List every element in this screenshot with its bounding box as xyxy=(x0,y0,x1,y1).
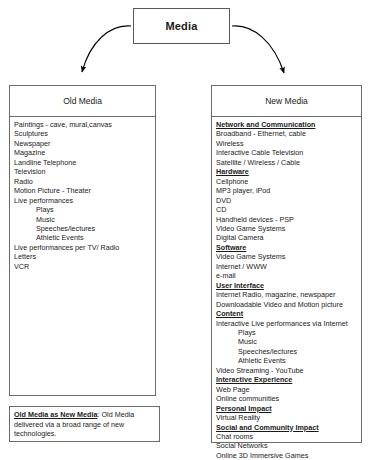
list-item: Handheld devices - PSP xyxy=(216,215,361,224)
list-item: Magazine xyxy=(14,148,155,157)
note-old-media-as-new-media: Old Media as New Media: Old Media delive… xyxy=(9,406,160,442)
diagram-canvas: Media Old Media Paintings - cave, mural,… xyxy=(0,0,373,460)
list-item: Landline Telephone xyxy=(14,158,155,167)
node-new-media[interactable]: New Media Network and CommunicationBroad… xyxy=(211,85,362,443)
list-item: Online 3D Immersive Games xyxy=(216,451,361,460)
list-item: Downloadable Video and Motion picture xyxy=(216,300,361,309)
list-item: Music xyxy=(216,337,361,346)
list-category: Hardware xyxy=(216,167,361,176)
new-media-header: New Media xyxy=(212,86,361,117)
note-label: Old Media as New Media xyxy=(14,410,97,419)
list-category: User Interface xyxy=(216,281,361,290)
list-item: Plays xyxy=(14,205,155,214)
list-item: Video Game Systems xyxy=(216,224,361,233)
list-item: Web Page xyxy=(216,385,361,394)
list-item: Letters xyxy=(14,252,155,261)
list-item: Video Game Systems xyxy=(216,252,361,261)
old-media-header: Old Media xyxy=(10,86,155,117)
arrow-to-new-media-path xyxy=(232,26,284,73)
list-item: Virtual Reality xyxy=(216,413,361,422)
list-item: CD xyxy=(216,205,361,214)
list-item: Internet / WWW xyxy=(216,262,361,271)
list-item: Paintings - cave, mural,canvas xyxy=(14,120,155,129)
list-category: Software xyxy=(216,243,361,252)
arrow-to-old-media-path xyxy=(82,26,131,72)
list-item: Satellite / Wireless / Cable xyxy=(216,158,361,167)
list-item: Video Streaming - YouTube xyxy=(216,366,361,375)
list-category: Social and Community Impact xyxy=(216,423,361,432)
list-item: Radio xyxy=(14,177,155,186)
list-category: Interactive Experience xyxy=(216,375,361,384)
list-item: Sculptures xyxy=(14,129,155,138)
list-item: VCR xyxy=(14,262,155,271)
list-item: Athletic Events xyxy=(216,356,361,365)
list-item: DVD xyxy=(216,196,361,205)
list-category: Network and Communication xyxy=(216,120,361,129)
list-item: Plays xyxy=(216,328,361,337)
list-item: Wireless xyxy=(216,139,361,148)
new-media-header-label: New Media xyxy=(265,96,308,106)
list-item: Digital Camera xyxy=(216,233,361,242)
list-item: Speeches/lectures xyxy=(14,224,155,233)
list-item: Interactive Cable Television xyxy=(216,148,361,157)
list-item: Internet Radio, magazine, newspaper xyxy=(216,290,361,299)
root-node-media[interactable]: Media xyxy=(133,8,230,44)
list-item: Athletic Events xyxy=(14,233,155,242)
list-item: Television xyxy=(14,167,155,176)
list-item: Interactive Live performances via Intern… xyxy=(216,319,361,328)
root-node-label: Media xyxy=(165,20,197,32)
list-item: Social Networks xyxy=(216,441,361,450)
new-media-list: Network and CommunicationBroadband - Eth… xyxy=(212,117,361,460)
list-category: Personal Impact xyxy=(216,404,361,413)
node-old-media[interactable]: Old Media Paintings - cave, mural,canvas… xyxy=(9,85,156,396)
list-category: Content xyxy=(216,309,361,318)
list-item: MP3 player, iPod xyxy=(216,186,361,195)
list-item: Online communities xyxy=(216,394,361,403)
list-item: Music xyxy=(14,215,155,224)
list-item: Newspaper xyxy=(14,139,155,148)
old-media-header-label: Old Media xyxy=(63,96,102,106)
list-item: Live performances per TV/ Radio xyxy=(14,243,155,252)
list-item: Live performances xyxy=(14,196,155,205)
list-item: Speeches/lectures xyxy=(216,347,361,356)
old-media-list: Paintings - cave, mural,canvasSculptures… xyxy=(10,117,155,271)
list-item: Cellphone xyxy=(216,177,361,186)
list-item: e-mail xyxy=(216,271,361,280)
list-item: Broadband - Ethernet, cable xyxy=(216,129,361,138)
list-item: Chat rooms xyxy=(216,432,361,441)
list-item: Motion Picture - Theater xyxy=(14,186,155,195)
note-text: Old Media as New Media: Old Media delive… xyxy=(14,410,155,439)
